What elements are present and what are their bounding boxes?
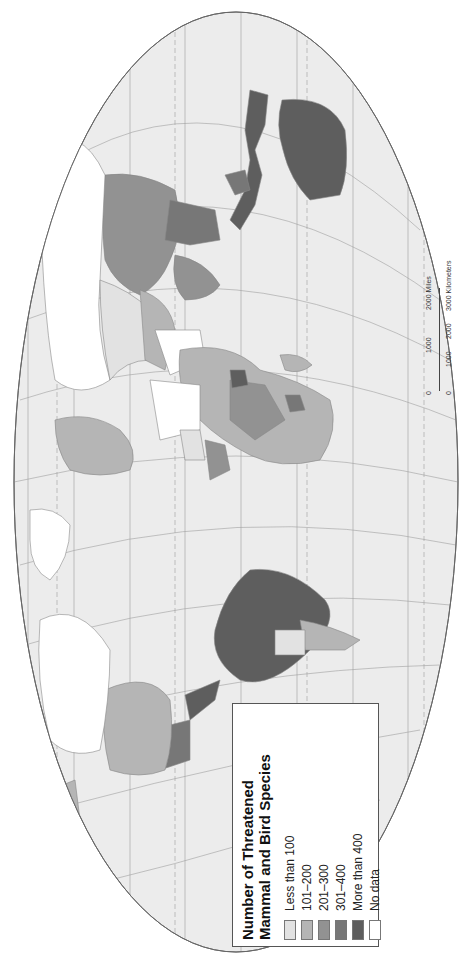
legend-title: Number of Threatened Mammal and Bird Spe… bbox=[239, 712, 273, 940]
legend-label: More than 400 bbox=[351, 834, 365, 911]
scale-line bbox=[439, 288, 440, 391]
legend-item-less-than-100: Less than 100 bbox=[281, 712, 298, 940]
region-usa bbox=[103, 682, 171, 775]
scale-miles: 0 1000 2000 Miles bbox=[425, 245, 437, 395]
legend-item-201-300: 201–300 bbox=[315, 712, 332, 940]
swatch-201-300 bbox=[318, 920, 330, 940]
legend-title-line1: Number of Threatened bbox=[239, 712, 256, 940]
legend-title-line2: Mammal and Bird Species bbox=[256, 712, 273, 940]
scale-tick: 2000 Miles bbox=[425, 276, 432, 310]
scale-bar: 0 1000 2000 Miles 0 1000 2000 3000 Kilom… bbox=[425, 245, 465, 395]
swatch-more-than-400 bbox=[352, 920, 364, 940]
legend-label: 101–200 bbox=[300, 864, 314, 911]
legend: Number of Threatened Mammal and Bird Spe… bbox=[232, 703, 379, 947]
swatch-301-400 bbox=[335, 920, 347, 940]
scale-tick: 3000 Kilometers bbox=[445, 260, 452, 311]
legend-label: 301–400 bbox=[334, 864, 348, 911]
legend-item-no-data: No data bbox=[366, 712, 383, 940]
swatch-101-200 bbox=[301, 920, 313, 940]
legend-item-101-200: 101–200 bbox=[298, 712, 315, 940]
swatch-less-than-100 bbox=[284, 920, 296, 940]
region-canada bbox=[39, 614, 110, 753]
legend-label: No data bbox=[368, 869, 382, 911]
legend-label: Less than 100 bbox=[283, 836, 297, 911]
scale-km: 0 1000 2000 3000 Kilometers bbox=[445, 245, 457, 395]
scale-tick: 1000 bbox=[425, 337, 432, 353]
legend-item-more-than-400: More than 400 bbox=[349, 712, 366, 940]
scale-tick: 0 bbox=[425, 391, 432, 395]
scale-tick: 2000 bbox=[445, 323, 452, 339]
scale-tick: 0 bbox=[445, 391, 452, 395]
swatch-no-data bbox=[369, 920, 381, 940]
scale-tick: 1000 bbox=[445, 351, 452, 367]
region-alaska bbox=[50, 780, 80, 840]
legend-item-301-400: 301–400 bbox=[332, 712, 349, 940]
legend-label: 201–300 bbox=[317, 864, 331, 911]
region-russia bbox=[40, 139, 110, 390]
